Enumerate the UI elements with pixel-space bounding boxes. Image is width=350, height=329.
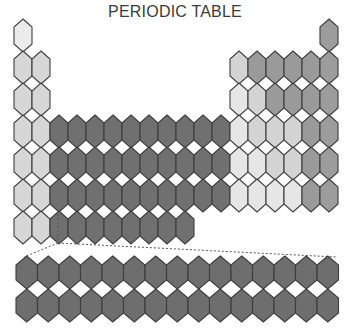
element-cell (140, 147, 158, 180)
element-cell (158, 211, 176, 244)
connector-right-line (58, 243, 336, 257)
actinide-cell (124, 289, 146, 322)
element-cell (302, 147, 320, 180)
element-cell (320, 115, 338, 148)
element-cell (320, 179, 338, 212)
element-cell (140, 179, 158, 212)
element-cell (104, 147, 122, 180)
element-cell (248, 179, 266, 212)
element-cell (32, 179, 50, 212)
element-cell (50, 211, 68, 244)
lanthanide-cell (16, 256, 38, 289)
actinide-cell (38, 289, 60, 322)
lanthanide-cell (59, 256, 81, 289)
element-cell (194, 115, 212, 148)
lanthanide-cell (124, 256, 146, 289)
actinide-cell (59, 289, 81, 322)
element-cell (212, 147, 230, 180)
actinide-cell (210, 289, 232, 322)
element-cell (284, 83, 302, 116)
element-cell (32, 211, 50, 244)
lanthanide-cell (167, 256, 189, 289)
actinide-cell (317, 289, 339, 322)
element-cell (284, 147, 302, 180)
element-cell (50, 179, 68, 212)
lanthanide-cell (145, 256, 167, 289)
lanthanide-cell (296, 256, 318, 289)
element-cell (104, 179, 122, 212)
actinide-cell (16, 289, 38, 322)
actinide-cell (102, 289, 124, 322)
lanthanide-cell (38, 256, 60, 289)
element-cell (230, 51, 248, 84)
element-cell (86, 115, 104, 148)
element-cell (32, 115, 50, 148)
element-cell (320, 51, 338, 84)
element-cell (140, 115, 158, 148)
element-cell (68, 147, 86, 180)
element-cell (86, 179, 104, 212)
element-cell (266, 147, 284, 180)
element-cell (50, 115, 68, 148)
element-cell (14, 179, 32, 212)
element-cell (122, 179, 140, 212)
actinide-cell (296, 289, 318, 322)
element-cell (320, 83, 338, 116)
element-cell (86, 211, 104, 244)
connector-left-line (24, 243, 58, 257)
actinide-cell (231, 289, 253, 322)
element-cell (122, 211, 140, 244)
element-cell (158, 147, 176, 180)
element-cell (14, 115, 32, 148)
lanthanide-cell (210, 256, 232, 289)
element-cell (14, 147, 32, 180)
element-cell (284, 115, 302, 148)
element-cell (266, 115, 284, 148)
element-cell (266, 51, 284, 84)
lanthanide-cell (188, 256, 210, 289)
element-cell (14, 83, 32, 116)
actinide-cell (274, 289, 296, 322)
actinide-cell (145, 289, 167, 322)
element-cell (86, 147, 104, 180)
element-cell (302, 51, 320, 84)
element-cell (32, 83, 50, 116)
element-cell (284, 51, 302, 84)
element-cell (230, 179, 248, 212)
element-cell (68, 179, 86, 212)
element-cell (176, 179, 194, 212)
element-cell (122, 115, 140, 148)
element-cell (158, 115, 176, 148)
element-cell (194, 147, 212, 180)
element-cell (32, 51, 50, 84)
element-cell (122, 147, 140, 180)
element-cell (320, 147, 338, 180)
element-cell (176, 147, 194, 180)
periodic-table-diagram (0, 0, 350, 329)
element-cell (176, 211, 194, 244)
element-cell (248, 51, 266, 84)
element-cell (302, 179, 320, 212)
lanthanide-cell (274, 256, 296, 289)
element-cell (104, 211, 122, 244)
element-cell (176, 115, 194, 148)
element-cell (302, 83, 320, 116)
element-cell (68, 115, 86, 148)
lanthanide-cell (317, 256, 339, 289)
element-cell (194, 179, 212, 212)
element-cell (158, 179, 176, 212)
element-cell (230, 115, 248, 148)
actinide-cell (188, 289, 210, 322)
element-cell (212, 179, 230, 212)
f-block-grid (16, 256, 339, 322)
element-cell (14, 211, 32, 244)
element-cell (230, 147, 248, 180)
element-cell (266, 83, 284, 116)
element-cell (32, 147, 50, 180)
element-cell (266, 179, 284, 212)
lanthanide-cell (231, 256, 253, 289)
element-cell (284, 179, 302, 212)
element-cell (50, 147, 68, 180)
lanthanide-cell (253, 256, 275, 289)
element-cell (68, 211, 86, 244)
